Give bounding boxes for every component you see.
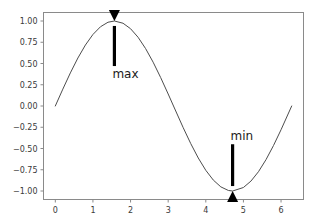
y-tick-label: 0.00 <box>0 102 38 111</box>
axis-ticks <box>41 21 282 203</box>
y-tick-label: −0.25 <box>0 123 38 132</box>
x-tick-label: 1 <box>90 206 95 215</box>
x-tick-label: 3 <box>166 206 171 215</box>
annotation-label-min: min <box>231 129 254 143</box>
y-tick-label: −1.00 <box>0 187 38 196</box>
x-tick-label: 2 <box>128 206 133 215</box>
data-series-lines <box>55 21 291 191</box>
annotation-arrow-head <box>109 10 120 21</box>
x-tick-label: 5 <box>241 206 246 215</box>
plot-canvas <box>0 0 315 224</box>
x-tick-label: 0 <box>53 206 58 215</box>
y-tick-label: 0.75 <box>0 38 38 47</box>
matplotlib-figure: 1.000.750.500.250.00−0.25−0.50−0.75−1.00… <box>0 0 315 224</box>
annotation-label-max: max <box>112 67 138 81</box>
x-tick-label: 4 <box>203 206 208 215</box>
y-tick-label: 0.25 <box>0 80 38 89</box>
y-tick-label: −0.75 <box>0 165 38 174</box>
x-tick-label: 6 <box>278 206 283 215</box>
y-tick-label: −0.50 <box>0 144 38 153</box>
annotation-arrow-head <box>227 191 238 202</box>
y-tick-label: 1.00 <box>0 17 38 26</box>
y-tick-label: 0.50 <box>0 59 38 68</box>
series-line <box>55 21 291 191</box>
